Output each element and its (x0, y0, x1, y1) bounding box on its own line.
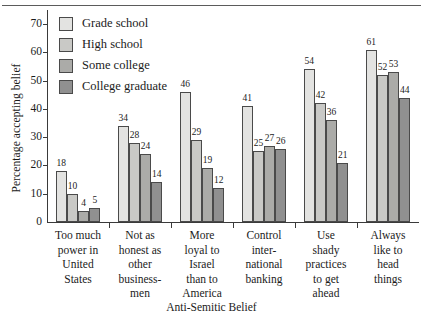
bar-group-bars: 41252726 (242, 10, 287, 222)
x-category-label-line: business- (109, 272, 171, 287)
bar[interactable] (337, 163, 348, 222)
bar-column[interactable]: 25 (253, 10, 264, 222)
bar-column[interactable]: 27 (264, 10, 275, 222)
bar[interactable] (180, 92, 191, 222)
y-tick-label: 10 (12, 188, 42, 200)
bar-value-label: 41 (242, 94, 252, 104)
bar[interactable] (202, 168, 213, 222)
bar-group: 46291912 (180, 10, 225, 222)
x-category-label-line: Too much (47, 228, 109, 243)
bar-value-label: 4 (81, 199, 86, 209)
bar[interactable] (366, 50, 377, 222)
bar-value-label: 36 (327, 108, 337, 118)
bar-column[interactable]: 44 (399, 10, 410, 222)
x-category-label-line: like to (357, 243, 419, 258)
bar-column[interactable]: 42 (315, 10, 326, 222)
bar-value-label: 5 (92, 196, 97, 206)
x-category-label-line: loyal to (171, 243, 233, 258)
bar-value-label: 34 (118, 114, 128, 124)
bar[interactable] (275, 149, 286, 222)
x-category-label: Moreloyal toIsraelthan toAmerica (171, 228, 233, 301)
bar[interactable] (242, 106, 253, 222)
x-category-label-line: national (233, 257, 295, 272)
bar-value-label: 14 (152, 170, 162, 180)
x-category-label: Not ashonest asotherbusiness-men (109, 228, 171, 301)
bar[interactable] (140, 154, 151, 222)
legend-label: Some college (82, 59, 150, 72)
x-axis-title: Anti-Semitic Belief (0, 300, 423, 314)
bar-value-label: 53 (389, 60, 399, 70)
x-category-label-line: United (47, 257, 109, 272)
legend-item[interactable]: College graduate (59, 76, 167, 97)
bar-group: 61525344 (366, 10, 411, 222)
x-category-label-line: shady (295, 243, 357, 258)
bar[interactable] (399, 98, 410, 222)
bar-value-label: 46 (180, 80, 190, 90)
bar[interactable] (377, 75, 388, 222)
legend-swatch-icon (59, 38, 73, 52)
bar-column[interactable]: 21 (337, 10, 348, 222)
legend-swatch-icon (59, 80, 73, 94)
x-category-label-line: things (357, 272, 419, 287)
bar-value-label: 24 (141, 142, 151, 152)
x-category-label-line: to get (295, 272, 357, 287)
x-category-label-line: Israel (171, 257, 233, 272)
legend: Grade schoolHigh schoolSome collegeColle… (59, 13, 167, 97)
bar[interactable] (67, 194, 78, 222)
bar-group: 41252726 (242, 10, 287, 222)
bar-column[interactable]: 29 (191, 10, 202, 222)
x-category-label-line: More (171, 228, 233, 243)
legend-swatch-icon (59, 59, 73, 73)
bar-column[interactable]: 52 (377, 10, 388, 222)
bar-column[interactable]: 53 (388, 10, 399, 222)
legend-item[interactable]: High school (59, 34, 167, 55)
bar-column[interactable]: 46 (180, 10, 191, 222)
bar[interactable] (56, 171, 67, 222)
bar[interactable] (264, 146, 275, 222)
bar-column[interactable]: 41 (242, 10, 253, 222)
bar[interactable] (89, 208, 100, 222)
legend-item[interactable]: Grade school (59, 13, 167, 34)
bar-group-bars: 46291912 (180, 10, 225, 222)
bar-value-label: 42 (316, 91, 326, 101)
bar[interactable] (78, 211, 89, 222)
bar[interactable] (118, 126, 129, 222)
x-category-label-line: inter- (233, 243, 295, 258)
bar-value-label: 61 (366, 38, 376, 48)
bar-value-label: 18 (56, 159, 66, 169)
x-category-label-line: States (47, 272, 109, 287)
bar[interactable] (315, 103, 326, 222)
x-category-label-line: banking (233, 272, 295, 287)
bar[interactable] (253, 151, 264, 222)
bar-column[interactable]: 36 (326, 10, 337, 222)
bar-column[interactable]: 19 (202, 10, 213, 222)
bar-column[interactable]: 12 (213, 10, 224, 222)
bar-value-label: 52 (378, 63, 388, 73)
bar[interactable] (129, 143, 140, 222)
x-category-label: Too muchpower inUnitedStates (47, 228, 109, 286)
x-category-label-line: other (109, 257, 171, 272)
bar[interactable] (151, 182, 162, 222)
x-category-label: Controlinter-nationalbanking (233, 228, 295, 286)
y-tick-label: 60 (12, 47, 42, 59)
bar-value-label: 29 (192, 128, 202, 138)
x-category-label-line: power in (47, 243, 109, 258)
bar[interactable] (388, 72, 399, 222)
bar[interactable] (304, 69, 315, 222)
x-category-label-line: Always (357, 228, 419, 243)
y-tick-label: 70 (12, 18, 42, 30)
bar-column[interactable]: 54 (304, 10, 315, 222)
bar-value-label: 28 (130, 131, 140, 141)
x-category-label: Alwayslike toheadthings (357, 228, 419, 286)
bar[interactable] (326, 120, 337, 222)
bar-value-label: 27 (265, 134, 275, 144)
bar-value-label: 19 (203, 156, 213, 166)
bar[interactable] (213, 188, 224, 222)
bar[interactable] (191, 140, 202, 222)
bar-column[interactable]: 26 (275, 10, 286, 222)
bar-column[interactable]: 61 (366, 10, 377, 222)
bar-group-bars: 54423621 (304, 10, 349, 222)
x-category-label-line: head (357, 257, 419, 272)
legend-item[interactable]: Some college (59, 55, 167, 76)
y-tick-label: 0 (12, 216, 42, 228)
